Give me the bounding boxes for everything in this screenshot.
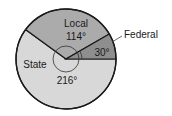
label-federal: Federal: [124, 29, 158, 40]
label-federal-value: 30°: [94, 47, 109, 58]
label-local: Local: [64, 18, 88, 29]
federal-leader-line: [112, 36, 122, 42]
label-local-value: 114°: [66, 31, 86, 42]
pie-chart: Local 114° 30° State 216° Federal: [0, 0, 172, 116]
label-state-value: 216°: [57, 75, 78, 86]
label-state: State: [23, 59, 47, 70]
